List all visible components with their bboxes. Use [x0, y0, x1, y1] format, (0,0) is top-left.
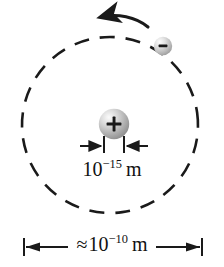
nucleus-size-label: 10−15m	[0, 159, 224, 179]
atom-size-exponent: −10	[109, 232, 128, 246]
atom-size-mantissa: 10	[89, 233, 109, 255]
nucleus-size-unit: m	[126, 158, 142, 180]
nucleus-size-exponent: −15	[103, 157, 122, 171]
atom-diagram	[0, 0, 224, 267]
atom-size-label: ≈10−10m	[0, 234, 224, 254]
orbit-direction-arrow	[101, 15, 148, 27]
figure-canvas: 10−15m ≈10−10m	[0, 0, 224, 267]
approx-symbol: ≈	[77, 233, 88, 255]
electron	[154, 37, 172, 55]
atom-size-unit: m	[132, 233, 148, 255]
nucleus	[99, 109, 129, 139]
nucleus-size-mantissa: 10	[83, 158, 103, 180]
